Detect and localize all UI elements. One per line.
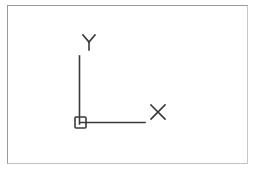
x-label-glyph [151,105,165,119]
ucs-icon: Y X [0,0,259,173]
y-label-glyph [83,35,95,50]
